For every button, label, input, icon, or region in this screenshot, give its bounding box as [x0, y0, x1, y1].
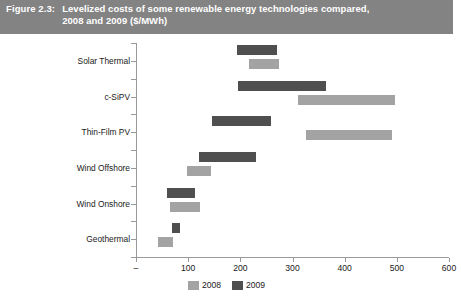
- x-axis-tick-label: 100: [168, 263, 208, 273]
- y-axis-minor-tick: [131, 132, 136, 133]
- bar-2008-wind-offshore: [187, 166, 211, 176]
- legend-item-2008: 2008: [188, 280, 221, 290]
- y-axis-tick: [131, 43, 136, 44]
- bar-2009-c-sipv: [238, 81, 326, 91]
- x-axis-tick: [240, 258, 241, 262]
- bar-2008-geothermal: [158, 237, 173, 247]
- y-axis-minor-tick: [131, 239, 136, 240]
- figure-number: Figure 2.3:: [6, 3, 62, 14]
- legend-label-2008: 2008: [202, 280, 221, 290]
- bar-2008-solar-thermal: [249, 59, 279, 69]
- y-axis-tick: [131, 114, 136, 115]
- bar-2008-wind-onshore: [170, 202, 200, 212]
- bar-2009-wind-offshore: [199, 152, 256, 162]
- legend-item-2009: 2009: [232, 280, 265, 290]
- figure-caption-line-1: Levelized costs of some renewable energy…: [62, 3, 369, 15]
- bar-2009-geothermal: [172, 223, 180, 233]
- bar-2008-c-sipv: [298, 95, 395, 105]
- x-axis-tick: [345, 258, 346, 262]
- legend-label-2009: 2009: [246, 280, 265, 290]
- y-axis-minor-tick: [131, 97, 136, 98]
- bar-2009-wind-onshore: [167, 188, 195, 198]
- x-axis-tick: [449, 258, 450, 262]
- y-axis-line: [136, 43, 137, 258]
- x-axis-tick-label: 300: [273, 263, 313, 273]
- x-axis-tick: [397, 258, 398, 262]
- x-axis-tick: [136, 258, 137, 262]
- y-axis-tick: [131, 79, 136, 80]
- bar-2009-solar-thermal: [237, 45, 277, 55]
- y-axis-tick: [131, 186, 136, 187]
- y-axis-minor-tick: [131, 61, 136, 62]
- category-label-wind-onshore: Wind Onshore: [6, 199, 130, 209]
- bar-2009-thin-film-pv: [212, 116, 271, 126]
- bar-2008-thin-film-pv: [306, 130, 392, 140]
- y-axis-tick: [131, 221, 136, 222]
- x-axis-tick-label: 400: [325, 263, 365, 273]
- x-axis-tick: [293, 258, 294, 262]
- y-axis-minor-tick: [131, 204, 136, 205]
- chart-legend: 20082009: [0, 280, 453, 290]
- category-label-wind-offshore: Wind Offshore: [6, 163, 130, 173]
- y-axis-minor-tick: [131, 168, 136, 169]
- x-axis-tick: [188, 258, 189, 262]
- chart-canvas: Solar Thermalc-SiPVThin-Film PVWind Offs…: [0, 34, 453, 307]
- plot-area: Solar Thermalc-SiPVThin-Film PVWind Offs…: [0, 34, 453, 307]
- x-axis-tick-label: 500: [377, 263, 417, 273]
- figure-caption-line-2: 2008 and 2009 ($/MWh): [62, 15, 369, 27]
- y-axis-tick: [131, 150, 136, 151]
- x-axis-tick-label: 600: [429, 263, 461, 273]
- category-label-c-sipv: c-SiPV: [6, 92, 130, 102]
- figure-title-banner: Figure 2.3: Levelized costs of some rene…: [0, 0, 453, 34]
- figure-caption: Levelized costs of some renewable energy…: [62, 3, 369, 28]
- legend-swatch-2009: [232, 281, 243, 290]
- x-axis-tick-label: 200: [220, 263, 260, 273]
- legend-swatch-2008: [188, 281, 199, 290]
- category-label-geothermal: Geothermal: [6, 234, 130, 244]
- x-axis-tick-label: –: [116, 263, 156, 273]
- category-label-solar-thermal: Solar Thermal: [6, 56, 130, 66]
- category-label-thin-film-pv: Thin-Film PV: [6, 127, 130, 137]
